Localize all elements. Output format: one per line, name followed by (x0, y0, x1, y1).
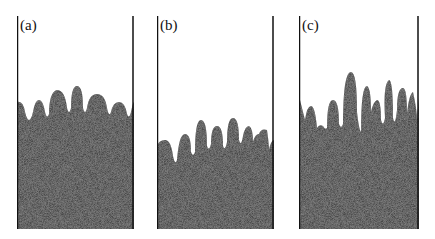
panel-c: (c) (299, 16, 419, 229)
panel-a: (a) (17, 16, 134, 229)
panel-label-c: (c) (302, 17, 319, 34)
panel-label-b: (b) (160, 17, 178, 34)
granular-pattern-c (299, 16, 419, 229)
panel-label-a: (a) (20, 17, 37, 34)
granular-pattern-a (17, 16, 134, 229)
granular-pattern-b (157, 16, 274, 229)
panel-b: (b) (157, 16, 274, 229)
